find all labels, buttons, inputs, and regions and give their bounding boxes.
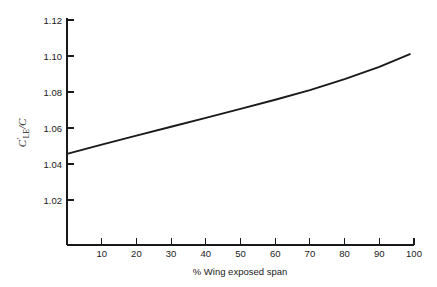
chart-plot-area: 1.12 1.10 1.08 1.06 1.04 1.02 10 20 30 4… (0, 0, 437, 287)
y-tick-label-0: 1.12 (44, 15, 63, 26)
x-tick-label-2: 30 (166, 248, 177, 259)
x-tick-label-9: 100 (406, 248, 422, 259)
y-tick-label-3: 1.06 (44, 123, 63, 134)
x-tick-label-0: 10 (96, 248, 107, 259)
data-series-line (67, 54, 411, 154)
svg-text:C′LE/C: C′LE/C (16, 118, 31, 147)
y-tick-label-5: 1.02 (44, 195, 63, 206)
x-tick-label-1: 20 (131, 248, 142, 259)
x-tick-label-6: 70 (305, 248, 316, 259)
x-axis-title: % Wing exposed span (193, 266, 288, 277)
y-axis-title: C′LE/C (16, 118, 31, 147)
x-tick-label-7: 80 (339, 248, 350, 259)
y-axis-title-subscript: LE (22, 129, 31, 139)
y-axis-tick-labels: 1.12 1.10 1.08 1.06 1.04 1.02 (44, 15, 63, 206)
chart-figure: 1.12 1.10 1.08 1.06 1.04 1.02 10 20 30 4… (0, 0, 437, 287)
y-axis-title-denominator: C (16, 118, 28, 126)
y-axis-ticks (67, 20, 74, 200)
x-tick-label-8: 90 (374, 248, 385, 259)
x-tick-label-3: 40 (201, 248, 212, 259)
x-axis-ticks (102, 238, 414, 245)
y-tick-label-4: 1.04 (44, 159, 63, 170)
x-tick-label-4: 50 (235, 248, 246, 259)
x-tick-label-5: 60 (270, 248, 281, 259)
y-tick-label-1: 1.10 (44, 51, 63, 62)
x-axis-tick-labels: 10 20 30 40 50 60 70 80 90 100 (96, 248, 422, 259)
y-tick-label-2: 1.08 (44, 87, 63, 98)
